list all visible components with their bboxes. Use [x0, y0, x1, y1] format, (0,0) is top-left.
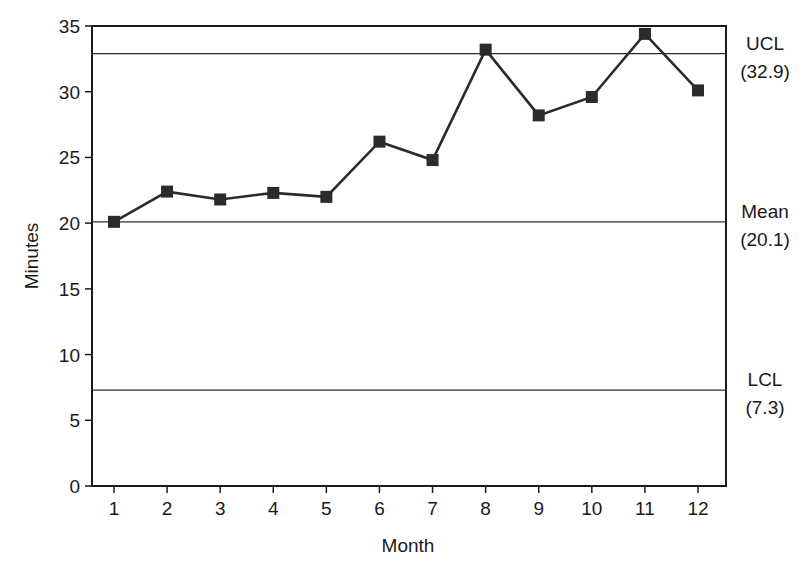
y-tick-label: 15 — [59, 279, 80, 300]
data-point-marker — [692, 84, 704, 96]
y-tick-label: 0 — [69, 476, 80, 497]
plot-area-border — [92, 26, 726, 486]
data-point-marker — [639, 28, 651, 40]
x-tick-label: 3 — [215, 498, 226, 519]
mean-value-label: (20.1) — [740, 229, 790, 250]
data-point-marker — [480, 44, 492, 56]
data-point-marker — [533, 109, 545, 121]
ucl-label: UCL — [746, 33, 784, 54]
mean-label: Mean — [741, 201, 789, 222]
x-tick-label: 11 — [635, 498, 655, 519]
lcl-label: LCL — [748, 369, 783, 390]
y-tick-label: 25 — [59, 147, 80, 168]
plot-frame — [92, 26, 726, 486]
data-point-marker — [427, 154, 439, 166]
control-limit-labels: UCL(32.9)Mean(20.1)LCL(7.3) — [740, 33, 790, 418]
y-tick-label: 20 — [59, 213, 80, 234]
y-tick-label: 5 — [69, 410, 80, 431]
y-tick-label: 30 — [59, 82, 80, 103]
ucl-value-label: (32.9) — [740, 61, 790, 82]
y-tick-label: 10 — [59, 345, 80, 366]
x-tick-label: 9 — [533, 498, 544, 519]
data-point-marker — [108, 216, 120, 228]
x-axis: 123456789101112 — [109, 486, 709, 519]
data-point-marker — [373, 136, 385, 148]
data-point-marker — [267, 187, 279, 199]
x-tick-label: 1 — [109, 498, 120, 519]
x-tick-label: 5 — [321, 498, 332, 519]
control-chart: 05101520253035 123456789101112 UCL(32.9)… — [0, 0, 805, 572]
x-tick-label: 12 — [687, 498, 708, 519]
data-point-marker — [161, 186, 173, 198]
x-tick-label: 4 — [268, 498, 279, 519]
lcl-value-label: (7.3) — [745, 397, 784, 418]
y-axis: 05101520253035 — [59, 16, 92, 497]
x-tick-label: 2 — [162, 498, 173, 519]
y-tick-label: 35 — [59, 16, 80, 37]
data-point-marker — [320, 191, 332, 203]
x-tick-label: 10 — [581, 498, 602, 519]
data-point-marker — [214, 193, 226, 205]
x-tick-label: 6 — [374, 498, 385, 519]
y-axis-title: Minutes — [21, 223, 42, 290]
x-tick-label: 8 — [480, 498, 491, 519]
x-tick-label: 7 — [427, 498, 438, 519]
data-point-marker — [586, 91, 598, 103]
x-axis-title: Month — [382, 535, 435, 556]
